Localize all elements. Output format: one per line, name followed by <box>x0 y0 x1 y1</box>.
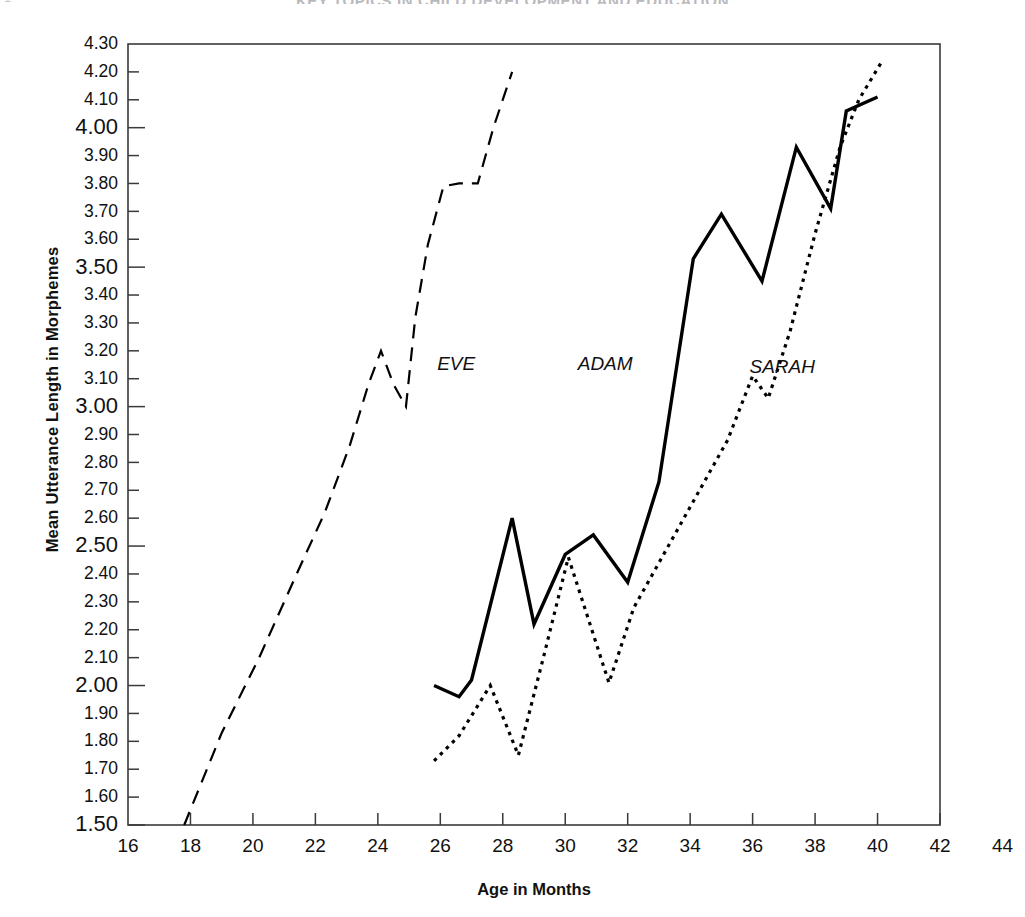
y-tick-label: 2.40 <box>0 563 118 584</box>
x-tick-label: 18 <box>160 835 220 857</box>
y-tick-label: 2.80 <box>0 452 118 473</box>
plot-frame <box>128 44 940 825</box>
x-axis-title: Age in Months <box>128 880 940 899</box>
x-tick-label: 36 <box>723 835 783 857</box>
x-tick-label: 22 <box>285 835 345 857</box>
y-tick-label: 2.50 <box>0 532 118 558</box>
y-tick-label: 2.70 <box>0 479 118 500</box>
x-tick-label: 44 <box>972 835 1025 857</box>
y-tick-label: 4.00 <box>0 114 118 140</box>
y-tick-label: 2.10 <box>0 647 118 668</box>
y-tick-label: 2.90 <box>0 424 118 445</box>
x-tick-label: 26 <box>410 835 470 857</box>
y-tick-label: 1.60 <box>0 786 118 807</box>
y-tick-label: 3.20 <box>0 340 118 361</box>
y-tick-label: 1.80 <box>0 730 118 751</box>
y-tick-label: 3.40 <box>0 284 118 305</box>
x-tick-label: 24 <box>348 835 408 857</box>
y-tick-label: 3.80 <box>0 173 118 194</box>
series-label-adam: ADAM <box>578 353 633 375</box>
y-tick-label: 4.30 <box>0 33 118 54</box>
y-tick-label: 4.10 <box>0 89 118 110</box>
y-tick-label: 3.00 <box>0 393 118 419</box>
series-line-eve <box>184 72 512 825</box>
series-label-sarah: SARAH <box>749 356 814 378</box>
x-tick-label: 42 <box>910 835 970 857</box>
y-tick-label: 3.10 <box>0 368 118 389</box>
y-tick-label: 1.70 <box>0 758 118 779</box>
x-tick-label: 16 <box>98 835 158 857</box>
y-tick-label: 4.20 <box>0 61 118 82</box>
x-tick-label: 32 <box>598 835 658 857</box>
y-tick-label: 2.30 <box>0 591 118 612</box>
y-tick-label: 3.60 <box>0 228 118 249</box>
x-tick-label: 38 <box>785 835 845 857</box>
y-tick-label: 1.90 <box>0 703 118 724</box>
x-tick-label: 30 <box>535 835 595 857</box>
y-tick-label: 3.30 <box>0 312 118 333</box>
y-tick-label: 3.90 <box>0 145 118 166</box>
y-tick-label: 2.20 <box>0 619 118 640</box>
series-line-sarah <box>434 64 881 761</box>
x-tick-label: 28 <box>473 835 533 857</box>
y-tick-label: 1.50 <box>0 811 118 837</box>
series-line-adam <box>434 97 877 697</box>
y-tick-label: 3.70 <box>0 201 118 222</box>
x-tick-label: 40 <box>848 835 908 857</box>
chart-figure: Mean Utterance Length in Morphemes Age i… <box>0 0 1025 917</box>
y-tick-label: 2.00 <box>0 672 118 698</box>
plot-area <box>0 0 1025 917</box>
x-tick-label: 34 <box>660 835 720 857</box>
series-label-eve: EVE <box>437 353 475 375</box>
x-tick-label: 20 <box>223 835 283 857</box>
y-tick-label: 3.50 <box>0 254 118 280</box>
y-tick-label: 2.60 <box>0 507 118 528</box>
